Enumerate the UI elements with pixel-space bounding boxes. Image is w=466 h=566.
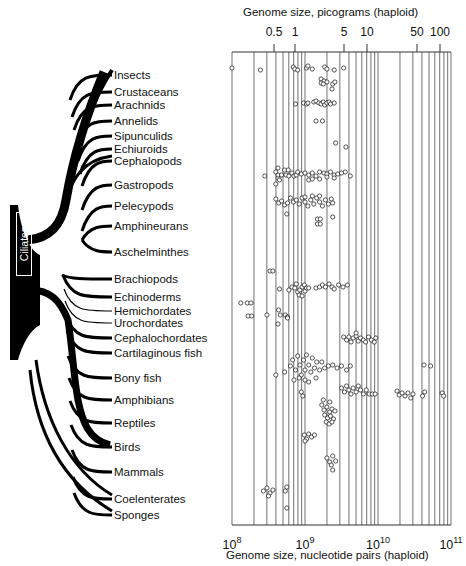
data-point (314, 376, 318, 380)
taxon-label: Bony fish (114, 372, 161, 384)
data-point (323, 198, 327, 202)
data-point (342, 390, 346, 394)
taxon-label: Arachnids (114, 99, 165, 111)
data-point (283, 370, 287, 374)
data-point (310, 67, 314, 71)
tree-branch (65, 301, 112, 323)
genome-size-figure (0, 0, 466, 566)
data-point (356, 384, 360, 388)
data-point (321, 398, 325, 402)
data-point (294, 282, 298, 286)
data-point (345, 368, 349, 372)
data-point (280, 173, 284, 177)
data-point (315, 360, 319, 364)
data-point (277, 287, 281, 291)
data-point (422, 363, 426, 367)
data-point (332, 287, 336, 291)
data-point (347, 388, 351, 392)
data-point (283, 489, 287, 493)
data-point (291, 358, 295, 362)
data-point (326, 364, 330, 368)
bottom-axis-title: Genome size, nucleotide pairs (haploid) (226, 549, 429, 561)
data-point (299, 390, 303, 394)
data-point (293, 286, 297, 290)
data-point (303, 195, 307, 199)
data-point (277, 308, 281, 312)
data-point (320, 360, 324, 364)
data-point (318, 194, 322, 198)
data-point (364, 388, 368, 392)
data-point (364, 340, 368, 344)
data-point (271, 488, 275, 492)
top-tick-label: 10 (360, 25, 373, 39)
data-point (312, 433, 316, 437)
data-point (326, 202, 330, 206)
data-point (297, 202, 301, 206)
data-point (406, 391, 410, 395)
data-point (303, 368, 307, 372)
bottom-tick-label: 1011 (439, 538, 462, 552)
data-point (325, 67, 329, 71)
taxon-label: Birds (114, 441, 140, 453)
data-point (318, 177, 322, 181)
data-point (271, 269, 275, 273)
data-point (349, 392, 353, 396)
data-point (261, 489, 265, 493)
top-tick-label: 1 (292, 25, 299, 39)
data-point (309, 370, 313, 374)
data-point (296, 68, 300, 72)
data-point (345, 384, 349, 388)
data-point (442, 394, 446, 398)
data-point (258, 68, 262, 72)
data-point (302, 433, 306, 437)
taxon-label: Cephalochordates (114, 332, 207, 344)
data-point (331, 363, 335, 367)
data-point (361, 392, 365, 396)
data-point (328, 170, 332, 174)
data-point (334, 141, 338, 145)
tree-branch (62, 275, 112, 279)
data-point (306, 101, 310, 105)
data-point (274, 182, 278, 186)
data-point (314, 119, 318, 123)
data-point (345, 283, 349, 287)
data-point (323, 285, 327, 289)
data-point (312, 202, 316, 206)
taxon-label: Hemichordates (114, 305, 191, 317)
tree-branches (62, 75, 112, 515)
data-point (373, 392, 377, 396)
data-point (298, 363, 302, 367)
data-point (320, 204, 324, 208)
data-point (335, 366, 339, 370)
data-point (334, 459, 338, 463)
data-point (331, 201, 335, 205)
data-point (411, 392, 415, 396)
data-point (333, 80, 337, 84)
data-point (325, 80, 329, 84)
plot-grid (232, 44, 451, 525)
data-point (358, 388, 362, 392)
data-point (288, 364, 292, 368)
taxon-label: Cephalopods (114, 155, 182, 167)
top-tick-label: 100 (430, 25, 450, 39)
tree-branch (72, 450, 112, 472)
tree-branch (82, 240, 112, 252)
data-point (301, 358, 305, 362)
taxon-label: Cartilaginous fish (114, 347, 202, 359)
ciliates-label: Ciliates (16, 212, 32, 276)
data-points (230, 64, 446, 510)
data-point (285, 485, 289, 489)
taxon-label: Sipunculids (114, 130, 173, 142)
data-point (409, 396, 413, 400)
data-point (325, 175, 329, 179)
data-point (296, 354, 300, 358)
data-point (303, 200, 307, 204)
taxon-label: Crustaceans (114, 86, 179, 98)
data-point (318, 200, 322, 204)
data-point (318, 222, 322, 226)
taxon-label: Gastropods (114, 179, 173, 191)
data-point (429, 364, 433, 368)
data-point (395, 389, 399, 393)
data-point (285, 506, 289, 510)
data-point (306, 204, 310, 208)
